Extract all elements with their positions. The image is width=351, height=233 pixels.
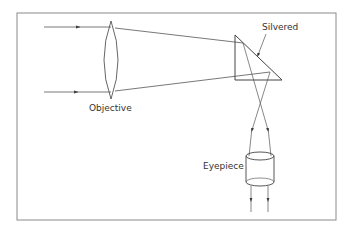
silvered-leader: [258, 34, 266, 55]
telescope-diagram: Silvered Objective Eyepiece: [0, 0, 351, 233]
eyepiece-icon: [246, 152, 274, 186]
output-rays: [251, 186, 268, 212]
incoming-rays: [44, 27, 111, 92]
reflected-rays: [243, 43, 271, 156]
diagram-frame: [17, 13, 336, 220]
objective-lens-icon: [104, 21, 118, 99]
converging-rays: [115, 28, 270, 91]
silvered-label: Silvered: [262, 22, 298, 32]
eyepiece-label: Eyepiece: [203, 161, 244, 171]
objective-label: Objective: [89, 103, 132, 113]
